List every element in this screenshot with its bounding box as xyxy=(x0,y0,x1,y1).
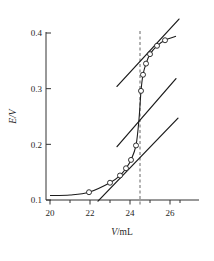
x-axis-tick-label: 20 xyxy=(46,208,56,218)
data-point-marker xyxy=(134,143,139,148)
y-axis-tick-label: 0.4 xyxy=(31,28,43,38)
titration-curve-path xyxy=(50,36,176,195)
data-point-marker xyxy=(124,166,129,171)
chart-figure: 0.10.20.30.420222426V/mLE/V xyxy=(0,0,214,261)
y-axis-tick-label: 0.2 xyxy=(31,140,42,150)
x-axis-label: V/mL xyxy=(111,227,133,237)
data-point-marker xyxy=(129,157,134,162)
data-point-marker xyxy=(139,88,144,93)
data-point-marker xyxy=(141,72,146,77)
data-point-marker xyxy=(108,180,113,185)
data-point-marker xyxy=(155,43,160,48)
x-axis-tick-label: 24 xyxy=(126,208,136,218)
x-axis-tick-label: 26 xyxy=(166,208,176,218)
x-axis-tick-label: 22 xyxy=(86,208,95,218)
y-axis-tick-label: 0.3 xyxy=(31,84,43,94)
titration-curve-plot: 0.10.20.30.420222426V/mLE/V xyxy=(0,0,214,261)
tangent-line xyxy=(117,79,176,147)
data-point-marker xyxy=(144,61,149,66)
y-axis-label: E/V xyxy=(8,108,18,124)
data-point-marker xyxy=(118,173,123,178)
data-point-marker xyxy=(148,52,153,57)
y-axis-tick-label: 0.1 xyxy=(31,195,42,205)
data-point-marker xyxy=(163,38,168,43)
data-point-marker xyxy=(87,190,92,195)
